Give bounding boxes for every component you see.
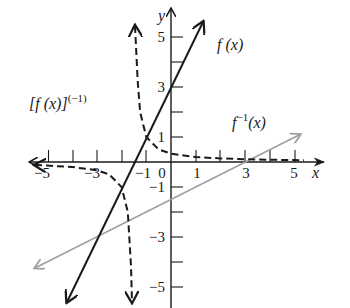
reciprocal-curve-left-branch xyxy=(35,165,132,302)
y-axis-label: y xyxy=(156,7,166,25)
axes xyxy=(30,9,324,308)
y-tick-label: 5 xyxy=(158,29,166,45)
reciprocal-label-base: [f (x)] xyxy=(29,95,68,113)
inverse-label-exponent: −1 xyxy=(236,111,248,123)
function-graph: −5 −3 −1 0 1 3 5 5 3 1 −1 −3 −5 y x f (x… xyxy=(0,0,350,308)
svg-text:f−1(x): f−1(x) xyxy=(232,111,266,132)
y-tick-label: −3 xyxy=(149,229,165,245)
reciprocal-label: [f (x)](−1) xyxy=(29,92,87,113)
inverse-function-line xyxy=(35,135,300,269)
x-tick-label: 1 xyxy=(193,165,201,181)
x-tick-label: 3 xyxy=(242,165,250,181)
y-tick-label: −1 xyxy=(149,179,165,195)
reciprocal-label-exponent: (−1) xyxy=(68,92,87,105)
inverse-label: f−1(x) xyxy=(232,111,266,132)
x-axis-label: x xyxy=(311,164,319,181)
inverse-label-suffix: (x) xyxy=(248,114,266,132)
x-tick-label: −5 xyxy=(34,165,50,181)
x-tick-label: −3 xyxy=(84,165,100,181)
x-tick-label: 5 xyxy=(290,165,298,181)
y-tick-label: −5 xyxy=(149,279,165,295)
y-tick-label: 1 xyxy=(158,129,166,145)
svg-text:[f (x)](−1): [f (x)](−1) xyxy=(29,92,87,113)
y-tick-label: 3 xyxy=(158,79,166,95)
f-label: f (x) xyxy=(217,36,243,54)
